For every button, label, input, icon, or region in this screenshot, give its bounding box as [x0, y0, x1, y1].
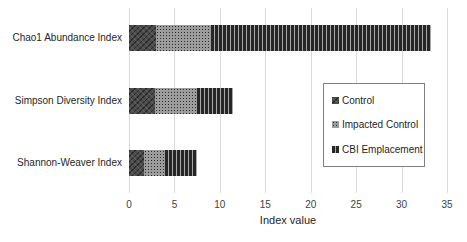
bar-segment-cbi-emplacement [197, 88, 233, 114]
x-tick-label: 35 [432, 199, 462, 210]
bar-segment-cbi-emplacement [211, 25, 431, 51]
legend-box: Control Impacted Control CBI Emplacement [323, 83, 425, 167]
x-tick-label: 25 [341, 199, 371, 210]
bar-segment-impacted-control [155, 88, 197, 114]
legend-marker-control-icon [332, 97, 339, 104]
x-tick-label: 5 [159, 199, 189, 210]
stacked-bar-chart: Index value 05101520253035Chao1 Abundanc… [0, 0, 467, 242]
x-tick-label: 20 [296, 199, 326, 210]
x-tick-label: 15 [250, 199, 280, 210]
legend-entry-control: Control [332, 95, 420, 106]
bar-segment-impacted-control [156, 25, 211, 51]
legend-label-control: Control [342, 95, 374, 106]
bar-segment-control [129, 25, 156, 51]
bar-segment-control [129, 150, 144, 176]
legend-marker-impacted-control-icon [332, 121, 339, 128]
x-tick-label: 10 [205, 199, 235, 210]
x-tick-label: 30 [387, 199, 417, 210]
bar-row [129, 88, 233, 114]
bar-row [129, 25, 431, 51]
legend-marker-cbi-emplacement-icon [332, 146, 339, 153]
x-axis-title: Index value [129, 214, 447, 226]
legend-entry-impacted-control: Impacted Control [332, 119, 420, 130]
legend-label-impacted-control: Impacted Control [342, 119, 418, 130]
bar-row [129, 150, 197, 176]
gridline [447, 8, 448, 193]
x-tick-label: 0 [114, 199, 144, 210]
bar-segment-cbi-emplacement [165, 150, 197, 176]
bar-segment-control [129, 88, 155, 114]
category-label: Simpson Diversity Index [0, 95, 122, 107]
category-label: Chao1 Abundance Index [0, 32, 122, 44]
legend-label-cbi-emplacement: CBI Emplacement [342, 144, 423, 155]
bar-segment-impacted-control [144, 150, 165, 176]
legend-entry-cbi-emplacement: CBI Emplacement [332, 144, 420, 155]
category-label: Shannon-Weaver Index [0, 157, 122, 169]
